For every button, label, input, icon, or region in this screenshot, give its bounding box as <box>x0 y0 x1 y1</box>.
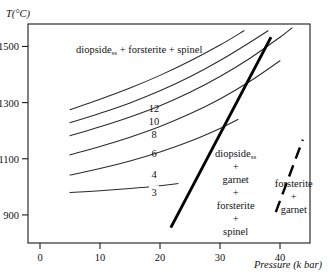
x-tick-label: 0 <box>37 252 42 263</box>
field-label-center-line-4: forsterite <box>217 200 255 211</box>
y-tick-label: 1100 <box>0 154 19 165</box>
plot-frame <box>28 24 310 243</box>
isopleth-label-6: 6 <box>151 148 156 159</box>
field-label-center-line-0: diopsidess <box>215 148 256 162</box>
isopleth-label-3: 3 <box>151 187 156 198</box>
x-tick-label: 30 <box>215 252 226 263</box>
isopleth-curve-6 <box>70 61 280 155</box>
y-tick-label: 1500 <box>0 41 19 52</box>
y-tick-label: 1300 <box>0 98 19 109</box>
field-label-center-line-5: + <box>233 213 239 224</box>
isopleth-label-8: 8 <box>151 129 156 140</box>
field-label-right-line-1: + <box>291 191 297 202</box>
field-label-center-line-3: + <box>233 187 239 198</box>
isopleth-label-4: 4 <box>151 169 157 180</box>
field-label-center-line-1: + <box>233 161 239 172</box>
phase-diagram-figure: 900110013001500 010203040 12108643 T(°C)… <box>0 0 330 275</box>
reaction-boundary-dashed <box>276 140 303 212</box>
isopleth-curve-12 <box>70 31 244 110</box>
x-axis-title: Pressure (k bar) <box>253 259 323 271</box>
x-axis-tick-labels: 010203040 <box>37 252 285 263</box>
x-tick-label: 20 <box>155 252 166 263</box>
field-label-upper-left: diopsidess + forsterite + spinel <box>76 44 202 58</box>
y-axis-title: T(°C) <box>6 8 31 20</box>
isopleth-curve-3 <box>70 183 178 192</box>
isopleth-label-12: 12 <box>149 103 160 114</box>
x-axis-ticks <box>40 243 280 249</box>
field-label-right-line-2: garnet <box>281 204 307 215</box>
field-label-right-line-0: forsterite <box>275 178 313 189</box>
isopleth-label-10: 10 <box>149 116 160 127</box>
field-label-center-line-6: spinel <box>223 226 248 237</box>
phase-diagram-svg: 900110013001500 010203040 12108643 T(°C)… <box>0 0 330 275</box>
y-axis-ticks <box>22 46 28 214</box>
x-tick-label: 10 <box>95 252 106 263</box>
y-tick-label: 900 <box>3 210 19 221</box>
field-label-center-line-2: garnet <box>222 174 248 185</box>
y-axis-tick-labels: 900110013001500 <box>0 41 19 220</box>
